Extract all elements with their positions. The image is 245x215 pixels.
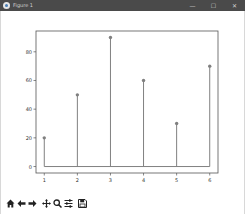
- forward-arrow-icon[interactable]: [27, 196, 38, 210]
- stem-marker: [208, 64, 211, 67]
- x-tick-label: 1: [43, 177, 46, 183]
- home-icon[interactable]: [5, 196, 16, 210]
- close-button[interactable]: ✕: [224, 0, 245, 11]
- window-controls: — ☐ ✕: [182, 0, 245, 11]
- y-tick-label: 60: [26, 77, 32, 83]
- x-tick-label: 6: [208, 177, 211, 183]
- stem-plot: 020406080123456: [1, 11, 244, 191]
- window-titlebar: Figure 1 — ☐ ✕: [0, 0, 245, 11]
- y-tick-label: 80: [26, 49, 32, 55]
- y-tick-label: 40: [26, 106, 32, 112]
- configure-subplots-icon[interactable]: [63, 196, 74, 210]
- x-tick-label: 3: [109, 177, 112, 183]
- x-tick-label: 5: [175, 177, 178, 183]
- pan-icon[interactable]: [41, 196, 52, 210]
- stem-marker: [109, 36, 112, 39]
- back-arrow-icon[interactable]: [16, 196, 27, 210]
- stem-marker: [76, 93, 79, 96]
- figure-canvas[interactable]: 020406080123456: [1, 11, 244, 191]
- y-tick-label: 0: [29, 164, 32, 170]
- x-tick-label: 4: [142, 177, 145, 183]
- maximize-button[interactable]: ☐: [203, 0, 224, 11]
- stem-marker: [142, 79, 145, 82]
- stem-marker: [175, 122, 178, 125]
- save-icon[interactable]: [77, 196, 88, 210]
- navigation-toolbar: [1, 192, 244, 214]
- zoom-icon[interactable]: [52, 196, 63, 210]
- y-tick-label: 20: [26, 135, 32, 141]
- window-title: Figure 1: [13, 0, 33, 11]
- x-tick-label: 2: [76, 177, 79, 183]
- app-icon: [3, 2, 10, 9]
- minimize-button[interactable]: —: [182, 0, 203, 11]
- stem-marker: [43, 136, 46, 139]
- axes-frame: [36, 31, 218, 173]
